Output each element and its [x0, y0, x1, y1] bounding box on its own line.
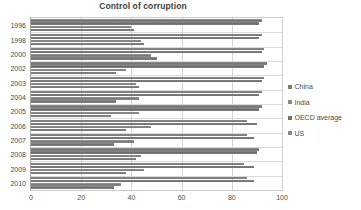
y-axis-tick-label: 2004: [10, 93, 26, 100]
bar-oecd-average-1996: [31, 22, 259, 24]
bar-india-1996: [31, 26, 131, 28]
bar-oecd-average-2000: [31, 51, 262, 53]
bar-group: [31, 118, 282, 132]
x-axis-labels: 020406080100: [30, 192, 283, 208]
bar-china-2008: [31, 158, 136, 160]
bars-layer: [31, 18, 282, 190]
bar-oecd-average-2007: [31, 137, 254, 139]
y-axis-tick-label: 1996: [10, 22, 26, 29]
bar-china-2000: [31, 57, 157, 59]
bar-group: [31, 147, 282, 161]
bar-us-2007: [31, 134, 247, 136]
x-axis-tick-label: 60: [178, 194, 186, 201]
bar-us-2000: [31, 48, 264, 50]
legend-item-label: OECD average: [295, 114, 342, 121]
bar-oecd-average-2010: [31, 180, 254, 182]
bar-oecd-average-2003: [31, 80, 262, 82]
legend-item-label: China: [295, 83, 313, 90]
bar-oecd-average-1998: [31, 37, 259, 39]
bar-us-2009: [31, 163, 244, 165]
bar-group: [31, 90, 282, 104]
bar-group: [31, 75, 282, 89]
bar-india-2002: [31, 69, 126, 71]
bar-india-2006: [31, 126, 151, 128]
plot-area: [30, 17, 283, 191]
legend-item-oecd-average[interactable]: OECD average: [288, 114, 360, 121]
bar-china-2003: [31, 86, 139, 88]
bar-china-2009: [31, 172, 126, 174]
y-axis-tick-label: 2003: [10, 79, 26, 86]
y-axis-tick-label: 2006: [10, 122, 26, 129]
bar-india-2007: [31, 140, 134, 142]
bar-china-2004: [31, 100, 116, 102]
gridline-vertical: [282, 18, 283, 190]
bar-india-2010: [31, 183, 121, 185]
legend-item-label: US: [295, 130, 305, 137]
bar-china-2005: [31, 115, 111, 117]
bar-us-2004: [31, 91, 262, 93]
bar-china-2002: [31, 72, 116, 74]
bar-group: [31, 32, 282, 46]
y-axis-tick-label: 1998: [10, 36, 26, 43]
bar-china-2006: [31, 129, 126, 131]
bar-oecd-average-2005: [31, 108, 259, 110]
bar-us-2003: [31, 77, 264, 79]
bar-india-1998: [31, 40, 141, 42]
x-axis-tick-label: 20: [77, 194, 85, 201]
bar-us-1998: [31, 34, 262, 36]
x-axis-tick-label: 80: [228, 194, 236, 201]
legend-swatch-icon: [288, 85, 292, 89]
x-axis-tick-label: 40: [127, 194, 135, 201]
bar-group: [31, 104, 282, 118]
y-axis-labels: 1996199820002002200320042005200620072008…: [0, 17, 28, 191]
y-axis-tick-label: 2007: [10, 136, 26, 143]
bar-india-2003: [31, 83, 136, 85]
bar-us-2005: [31, 105, 262, 107]
bar-us-2002: [31, 62, 267, 64]
bar-group: [31, 61, 282, 75]
legend-item-india[interactable]: India: [288, 99, 360, 106]
bar-group: [31, 133, 282, 147]
bar-oecd-average-2009: [31, 166, 254, 168]
legend-item-us[interactable]: US: [288, 130, 360, 137]
bar-china-1998: [31, 43, 144, 45]
legend-swatch-icon: [288, 100, 292, 104]
x-axis-tick-label: 100: [276, 194, 288, 201]
bar-group: [31, 47, 282, 61]
bar-india-2000: [31, 54, 151, 56]
bar-us-1996: [31, 19, 262, 21]
y-axis-tick-label: 2008: [10, 151, 26, 158]
bar-china-2010: [31, 186, 114, 188]
bar-oecd-average-2002: [31, 65, 264, 67]
chart-container: Control of corruption 199619982000200220…: [0, 0, 361, 210]
chart-title: Control of corruption: [0, 1, 286, 11]
legend-swatch-icon: [288, 131, 292, 135]
y-axis-tick-label: 2010: [10, 179, 26, 186]
y-axis-tick-label: 2005: [10, 108, 26, 115]
legend-item-china[interactable]: China: [288, 83, 360, 90]
bar-group: [31, 161, 282, 175]
bar-us-2010: [31, 177, 247, 179]
legend-item-label: India: [295, 99, 310, 106]
bar-india-2009: [31, 169, 144, 171]
y-axis-tick-label: 2009: [10, 165, 26, 172]
bar-india-2005: [31, 112, 139, 114]
y-axis-tick-label: 2002: [10, 65, 26, 72]
bar-group: [31, 176, 282, 190]
bar-us-2008: [31, 148, 259, 150]
bar-oecd-average-2008: [31, 151, 257, 153]
bar-india-2008: [31, 155, 141, 157]
bar-oecd-average-2006: [31, 123, 257, 125]
bar-oecd-average-2004: [31, 94, 259, 96]
chart-legend: ChinaIndiaOECD averageUS: [288, 83, 360, 145]
bar-group: [31, 18, 282, 32]
bar-india-2004: [31, 97, 139, 99]
legend-swatch-icon: [288, 116, 292, 120]
bar-us-2006: [31, 120, 247, 122]
y-axis-tick-label: 2000: [10, 50, 26, 57]
x-axis-tick-label: 0: [29, 194, 33, 201]
bar-china-2007: [31, 143, 114, 145]
bar-china-1996: [31, 29, 134, 31]
